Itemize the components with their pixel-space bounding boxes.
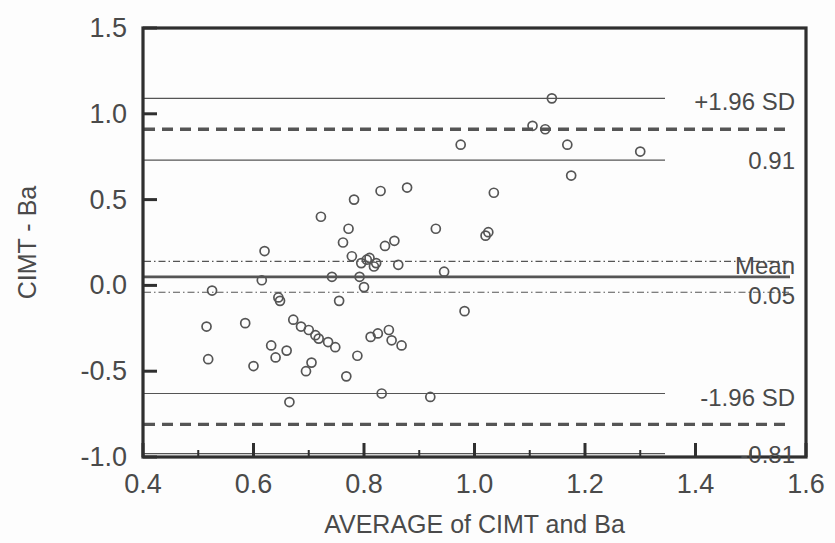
y-tick-label-4: 1.0 <box>89 99 127 129</box>
annotation-lower-sd-value: -0.81 <box>740 441 795 468</box>
x-tick-label-4: 1.2 <box>566 469 604 499</box>
x-tick-label-3: 1.0 <box>456 469 494 499</box>
x-tick-label-6: 1.6 <box>787 469 825 499</box>
y-tick-label-2: 0.0 <box>89 270 127 300</box>
annotation-lower-sd-label: -1.96 SD <box>700 384 795 411</box>
data-point <box>249 362 258 371</box>
data-point <box>347 252 356 261</box>
data-point <box>282 346 291 355</box>
data-point <box>563 140 572 149</box>
data-point <box>285 398 294 407</box>
x-tick-label-1: 0.6 <box>235 469 273 499</box>
data-point-group <box>202 94 645 407</box>
data-point <box>350 195 359 204</box>
data-point <box>440 267 449 276</box>
data-point <box>271 353 280 362</box>
data-point <box>344 224 353 233</box>
data-point <box>387 336 396 345</box>
chart-container: -1.0-0.50.00.51.01.50.40.60.81.01.21.41.… <box>0 0 835 543</box>
data-point <box>397 341 406 350</box>
data-point <box>394 260 403 269</box>
data-point <box>316 212 325 221</box>
data-point <box>431 224 440 233</box>
data-point <box>489 188 498 197</box>
data-point <box>241 319 250 328</box>
data-point <box>380 241 389 250</box>
y-axis-title: CIMT - Ba <box>13 186 41 300</box>
data-point <box>339 238 348 247</box>
data-point <box>390 236 399 245</box>
data-point <box>376 187 385 196</box>
x-tick-label-0: 0.4 <box>124 469 162 499</box>
data-point <box>289 315 298 324</box>
data-point <box>460 307 469 316</box>
data-point <box>353 351 362 360</box>
data-point <box>384 326 393 335</box>
data-point <box>267 341 276 350</box>
y-tick-label-5: 1.5 <box>89 13 127 43</box>
annotation-mean-label: Mean <box>735 252 795 279</box>
y-tick-label-1: -0.5 <box>80 356 127 386</box>
annotation-upper-sd-value: 0.91 <box>748 147 795 174</box>
data-point <box>301 367 310 376</box>
data-point <box>204 355 213 364</box>
annotation-upper-sd-label: +1.96 SD <box>694 88 795 115</box>
data-point <box>260 247 269 256</box>
data-point <box>403 183 412 192</box>
data-point <box>456 140 465 149</box>
data-point <box>335 296 344 305</box>
data-point <box>331 343 340 352</box>
x-axis-title: AVERAGE of CIMT and Ba <box>324 510 625 538</box>
y-tick-label-0: -1.0 <box>80 442 127 472</box>
x-tick-label-5: 1.4 <box>677 469 715 499</box>
data-point <box>208 286 217 295</box>
bland-altman-plot: -1.0-0.50.00.51.01.50.40.60.81.01.21.41.… <box>0 0 835 543</box>
data-point <box>636 147 645 156</box>
x-tick-label-2: 0.8 <box>345 469 383 499</box>
y-tick-label-3: 0.5 <box>89 185 127 215</box>
data-point <box>360 283 369 292</box>
data-point <box>307 358 316 367</box>
data-point <box>202 322 211 331</box>
annotation-mean-value: 0.05 <box>748 282 795 309</box>
data-point <box>567 171 576 180</box>
data-point <box>342 372 351 381</box>
